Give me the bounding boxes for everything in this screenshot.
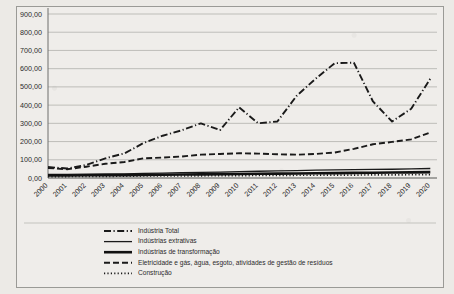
x-axis-tick-label: 2014 (299, 181, 317, 199)
y-axis-tick-label: 400,00 (20, 101, 42, 110)
x-axis-tick-label: 2013 (280, 181, 298, 199)
y-axis-tick-label: 800,00 (20, 28, 42, 37)
x-axis-tick-label: 2011 (242, 181, 259, 198)
series-line-3 (48, 132, 430, 169)
x-axis-tick-label: 2006 (146, 181, 164, 199)
legend-label-3[interactable]: Eletricidade e gás, água, esgoto, ativid… (138, 259, 333, 267)
x-axis-tick-label: 2019 (395, 181, 413, 199)
x-axis-tick-label: 2002 (70, 181, 88, 199)
x-axis-tick-label: 2003 (89, 181, 107, 199)
chart-figure: 0,00100,00200,00300,00400,00500,00600,00… (0, 0, 454, 294)
x-axis-tick-label: 2000 (32, 181, 50, 199)
y-axis-tick-label: 600,00 (20, 64, 42, 73)
x-axis-tick-label: 2016 (338, 181, 356, 199)
y-axis-tick-label: 700,00 (20, 46, 42, 55)
x-axis-tick-label: 2020 (414, 181, 432, 199)
y-axis-tick-label: 0,00 (28, 174, 42, 183)
y-axis-tick-label: 100,00 (20, 155, 42, 164)
x-axis-tick-label: 2015 (318, 181, 336, 199)
y-axis-tick-label: 300,00 (20, 119, 42, 128)
x-axis-tick-label: 2004 (108, 181, 126, 199)
y-axis-tick-label: 200,00 (20, 137, 42, 146)
x-axis-tick-label: 2009 (204, 181, 222, 199)
x-axis-tick-label: 2017 (357, 181, 375, 199)
line-chart: 0,00100,00200,00300,00400,00500,00600,00… (0, 0, 454, 294)
x-axis-tick-label: 2008 (185, 181, 203, 199)
legend-label-2[interactable]: Indústrias de transformação (138, 248, 220, 256)
x-axis-tick-label: 2010 (223, 181, 241, 199)
x-axis-tick-label: 2012 (261, 181, 279, 199)
legend-label-1[interactable]: Indústrias extrativas (138, 237, 197, 244)
x-axis-tick-label: 2005 (127, 181, 145, 199)
x-axis-tick-label: 2018 (376, 181, 394, 199)
legend-label-4[interactable]: Construção (138, 269, 172, 277)
x-axis-tick-label: 2007 (166, 181, 184, 199)
y-axis-tick-label: 500,00 (20, 82, 42, 91)
x-axis-tick-label: 2001 (51, 181, 69, 199)
y-axis-tick-label: 900,00 (20, 10, 42, 19)
legend-label-0[interactable]: Indústria Total (138, 227, 179, 234)
